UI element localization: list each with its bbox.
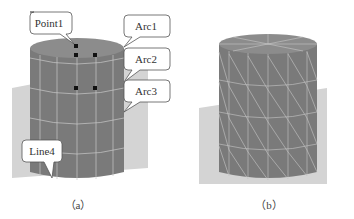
cylinder-quad-mesh-figure: Point1 Arc1 Arc2 Arc3 Line4 [0, 0, 177, 219]
svg-text:Point1: Point1 [35, 17, 64, 29]
callout-point1: Point1 [30, 12, 74, 44]
callout-arc1: Arc1 [124, 15, 170, 47]
caption-b: （b） [249, 196, 289, 212]
cylinder-tri-mesh-figure [177, 0, 354, 219]
svg-text:Arc1: Arc1 [135, 20, 157, 32]
panel-b-tri-mesh: （b） [177, 0, 354, 219]
svg-text:Line4: Line4 [29, 145, 55, 157]
svg-text:Arc3: Arc3 [135, 85, 157, 97]
panel-a-quad-mesh: Point1 Arc1 Arc2 Arc3 Line4 （a） [0, 0, 177, 219]
caption-a: （a） [58, 196, 98, 212]
svg-text:Arc2: Arc2 [135, 53, 157, 65]
